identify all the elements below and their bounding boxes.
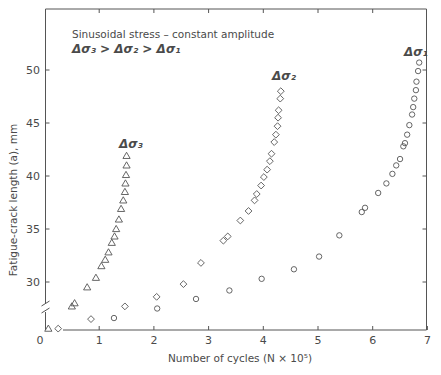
circle-marker-icon (407, 122, 412, 127)
circle-marker-icon (409, 112, 414, 117)
annotation-ordering: Δσ₃ > Δσ₂ > Δσ₁ (71, 42, 181, 56)
circle-marker-icon (413, 87, 418, 92)
triangle-marker-icon (115, 216, 122, 222)
circle-marker-icon (362, 205, 367, 210)
circle-marker-icon (401, 144, 406, 149)
diamond-marker-icon (251, 197, 258, 204)
diamond-marker-icon (180, 281, 187, 288)
circle-marker-icon (390, 171, 395, 176)
x-axis-title: Number of cycles (N × 10⁵) (168, 352, 312, 364)
chart-canvas: 012345673035404550 Sinusoidal stress – c… (0, 0, 441, 375)
x-tick-label: 4 (260, 334, 267, 347)
series-label: Δσ₂ (271, 69, 297, 83)
circle-marker-icon (404, 132, 409, 137)
fatigue-crack-chart: 012345673035404550 Sinusoidal stress – c… (0, 0, 441, 375)
diamond-marker-icon (266, 158, 273, 165)
axis-tick-labels: 012345673035404550 (26, 64, 431, 347)
series-label: Δσ₁ (403, 45, 428, 59)
series-triangle (45, 152, 130, 331)
annotation-condition: Sinusoidal stress – constant amplitude (72, 28, 274, 40)
diamond-marker-icon (272, 131, 279, 138)
triangle-marker-icon (122, 171, 129, 177)
diamond-marker-icon (245, 208, 252, 215)
triangle-marker-icon (84, 284, 91, 290)
diamond-marker-icon (237, 217, 244, 224)
x-tick-label: 0 (37, 334, 44, 347)
plot-frame (42, 9, 427, 330)
circle-marker-icon (397, 156, 402, 161)
y-axis-title: Fatigue-crack length (a), mm (7, 124, 19, 276)
diamond-marker-icon (153, 293, 160, 300)
circle-marker-icon (394, 163, 399, 168)
diamond-marker-icon (277, 95, 284, 102)
circle-marker-icon (410, 104, 415, 109)
circle-marker-icon (384, 181, 389, 186)
triangle-marker-icon (98, 263, 105, 269)
x-tick-label: 1 (96, 334, 103, 347)
triangle-marker-icon (122, 180, 129, 186)
triangle-marker-icon (113, 225, 120, 231)
circle-marker-icon (227, 288, 232, 293)
diamond-marker-icon (122, 303, 129, 310)
diamond-marker-icon (264, 166, 271, 173)
y-tick-label: 35 (26, 223, 40, 236)
circle-marker-icon (193, 296, 198, 301)
data-series: Δσ₃Δσ₂Δσ₁ (45, 45, 428, 332)
x-tick-label: 7 (424, 334, 431, 347)
x-tick-label: 3 (205, 334, 212, 347)
x-tick-label: 5 (315, 334, 322, 347)
circle-marker-icon (414, 79, 419, 84)
diamond-marker-icon (260, 174, 267, 181)
diamond-marker-icon (268, 150, 275, 157)
series-circle (111, 60, 422, 321)
triangle-marker-icon (108, 239, 115, 245)
y-tick-label: 40 (26, 170, 40, 183)
triangle-marker-icon (117, 205, 124, 211)
triangle-marker-icon (121, 188, 128, 194)
diamond-marker-icon (258, 182, 265, 189)
circle-marker-icon (111, 315, 116, 320)
diamond-marker-icon (253, 191, 260, 198)
y-tick-label: 50 (26, 64, 40, 77)
triangle-marker-icon (111, 233, 118, 239)
diamond-marker-icon (277, 88, 284, 95)
circle-marker-icon (375, 190, 380, 195)
circle-marker-icon (316, 254, 321, 259)
circle-marker-icon (412, 96, 417, 101)
diamond-marker-icon (55, 325, 62, 332)
diamond-marker-icon (274, 123, 281, 130)
triangle-marker-icon (92, 274, 99, 280)
diamond-marker-icon (275, 114, 282, 121)
circle-marker-icon (416, 60, 421, 65)
circle-marker-icon (154, 306, 159, 311)
triangle-marker-icon (123, 162, 130, 168)
diamond-marker-icon (271, 139, 278, 146)
diamond-marker-icon (88, 316, 95, 323)
triangle-marker-icon (123, 152, 130, 158)
circle-marker-icon (337, 233, 342, 238)
triangle-marker-icon (105, 249, 112, 255)
triangle-marker-icon (102, 256, 109, 262)
circle-marker-icon (259, 276, 264, 281)
triangle-marker-icon (120, 197, 127, 203)
series-diamond (55, 88, 284, 332)
diamond-marker-icon (275, 107, 282, 114)
y-tick-label: 45 (26, 117, 40, 130)
circle-marker-icon (291, 267, 296, 272)
circle-marker-icon (415, 68, 420, 73)
circle-marker-icon (402, 140, 407, 145)
axis-ticks (46, 9, 428, 330)
y-tick-label: 30 (26, 276, 40, 289)
series-label: Δσ₃ (118, 137, 144, 151)
x-tick-label: 6 (369, 334, 376, 347)
x-tick-label: 2 (150, 334, 157, 347)
diamond-marker-icon (198, 260, 205, 267)
